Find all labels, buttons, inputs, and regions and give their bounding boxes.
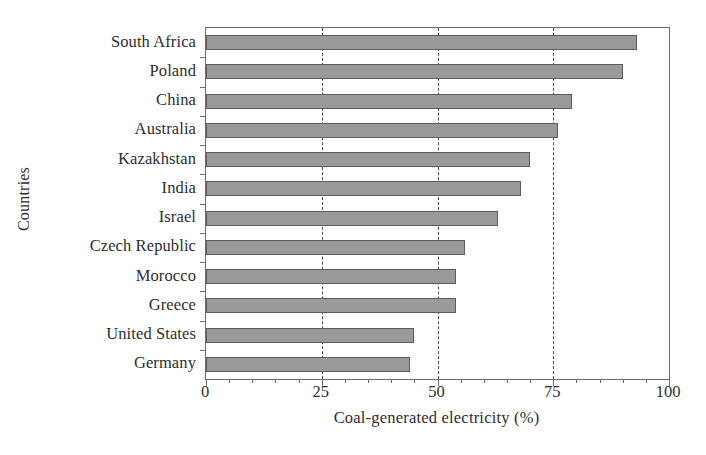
- plot-area: [205, 27, 670, 380]
- y-axis-tick: [200, 145, 206, 146]
- bar: [206, 240, 465, 255]
- y-axis-tick: [200, 262, 206, 263]
- y-axis-tick: [200, 233, 206, 234]
- y-axis-tick: [200, 57, 206, 58]
- y-axis-tick-label: Czech Republic: [10, 238, 196, 255]
- x-axis-minor-tick: [275, 379, 276, 383]
- y-axis-tick: [200, 321, 206, 322]
- y-axis-tick: [200, 291, 206, 292]
- bar: [206, 328, 414, 343]
- gridline: [438, 28, 439, 379]
- gridline: [322, 28, 323, 379]
- x-axis-minor-tick: [484, 379, 485, 383]
- x-axis-minor-tick: [600, 379, 601, 383]
- y-axis-tick-label: China: [10, 92, 196, 109]
- y-axis-tick: [200, 204, 206, 205]
- x-axis-minor-tick: [623, 379, 624, 383]
- bar: [206, 181, 521, 196]
- gridline: [553, 28, 554, 379]
- y-axis-tick-label: Greece: [10, 297, 196, 314]
- y-axis-tick-labels: South AfricaPolandChinaAustraliaKazakhst…: [10, 27, 196, 378]
- bar: [206, 64, 623, 79]
- x-axis-minor-tick: [368, 379, 369, 383]
- y-axis-tick-label: Poland: [10, 63, 196, 80]
- y-axis-tick: [200, 350, 206, 351]
- x-axis-minor-tick: [391, 379, 392, 383]
- x-axis-tick-label: 50: [407, 382, 467, 402]
- y-axis-tick: [200, 87, 206, 88]
- x-axis-tick-label: 0: [175, 382, 235, 402]
- y-axis-tick-label: Kazakhstan: [10, 151, 196, 168]
- bar: [206, 298, 456, 313]
- bar: [206, 357, 410, 372]
- bar: [206, 123, 558, 138]
- y-axis-tick-label: Germany: [10, 355, 196, 372]
- x-axis-title: Coal-generated electricity (%): [205, 408, 668, 428]
- x-axis-tick-label: 75: [522, 382, 582, 402]
- y-axis-tick-label: United States: [10, 326, 196, 343]
- y-axis-tick: [200, 116, 206, 117]
- y-axis-tick-label: Morocco: [10, 268, 196, 285]
- x-axis-tick-label: 25: [291, 382, 351, 402]
- y-axis-tick-label: Israel: [10, 209, 196, 226]
- bar: [206, 152, 530, 167]
- bar: [206, 269, 456, 284]
- bar-chart-figure: Countries South AfricaPolandChinaAustral…: [0, 0, 706, 455]
- x-axis-minor-tick: [252, 379, 253, 383]
- y-axis-tick: [200, 174, 206, 175]
- x-axis-minor-tick: [507, 379, 508, 383]
- bar: [206, 94, 572, 109]
- y-axis-tick-label: Australia: [10, 121, 196, 138]
- y-axis-tick-label: South Africa: [10, 34, 196, 51]
- bar: [206, 35, 637, 50]
- bar: [206, 211, 498, 226]
- x-axis-tick-label: 100: [638, 382, 698, 402]
- y-axis-tick-label: India: [10, 180, 196, 197]
